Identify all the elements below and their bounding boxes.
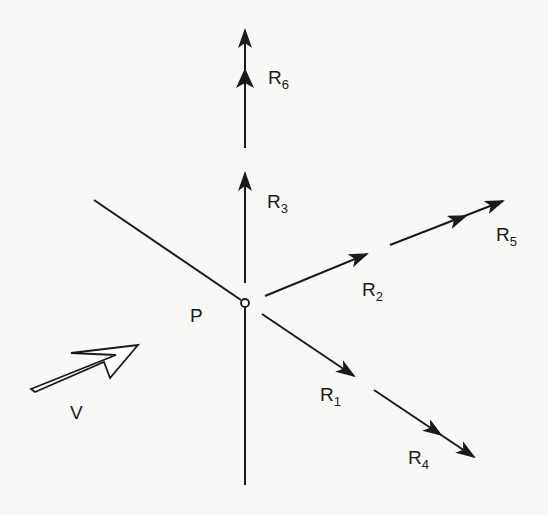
ray-label-r1: R1: [320, 385, 341, 408]
ray-r1-line: [262, 314, 354, 376]
incident-line: [94, 200, 241, 300]
point-p-marker: [241, 299, 249, 307]
point-p-label: P: [190, 306, 203, 325]
ray-r4-line: [374, 390, 474, 457]
ray-label-r5: R5: [496, 225, 517, 248]
velocity-arrow-icon: [31, 345, 138, 392]
ray-r2-line: [265, 254, 367, 296]
ray-r5-line: [390, 201, 503, 245]
ray-label-r6: R6: [268, 68, 289, 91]
diagram-canvas: P V R1 R2 R3 R4 R5 R6: [0, 0, 548, 515]
ray-label-r3: R3: [267, 192, 288, 215]
ray-label-r2: R2: [362, 280, 383, 303]
ray-label-r4: R4: [408, 448, 429, 471]
velocity-label: V: [70, 403, 83, 422]
